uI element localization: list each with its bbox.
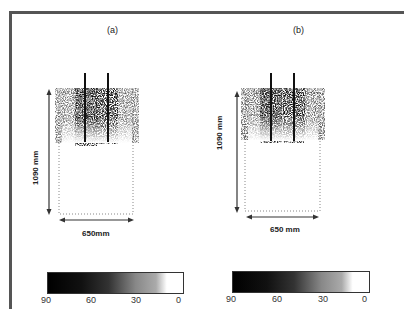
panel-b-width-label: 650 mm xyxy=(270,225,300,234)
panel-b-height-label: 1090 mm xyxy=(215,116,224,150)
panel-b-label: (b) xyxy=(293,25,304,35)
panel-a-height-label: 1090 mm xyxy=(31,151,40,185)
panel-a-colorbar xyxy=(47,272,184,294)
panel-a-diagram xyxy=(47,73,135,223)
panel-b-diagram xyxy=(235,73,321,220)
panel-b-tick-60: 60 xyxy=(272,294,282,304)
panel-b-colorbar xyxy=(232,271,370,293)
panel-b-tick-0: 0 xyxy=(362,294,367,304)
panel-a-tick-60: 60 xyxy=(86,295,96,305)
panel-b-tick-30: 30 xyxy=(318,294,328,304)
panel-a-tick-90: 90 xyxy=(41,295,51,305)
panel-a-tick-0: 0 xyxy=(176,295,181,305)
panel-b-tick-90: 90 xyxy=(226,294,236,304)
panel-a-tick-30: 30 xyxy=(131,295,141,305)
panel-a-width-label: 650mm xyxy=(82,229,110,238)
panel-a-label: (a) xyxy=(107,25,118,35)
